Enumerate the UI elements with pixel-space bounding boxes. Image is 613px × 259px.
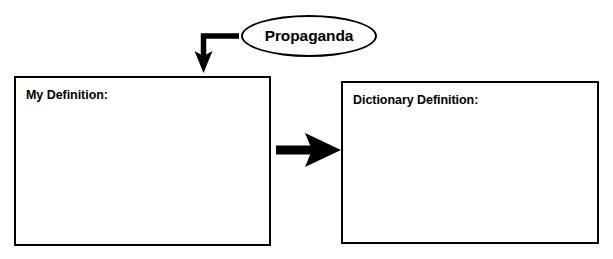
my-definition-content[interactable] [26,110,261,236]
arrow-right-icon [276,133,341,167]
topic-ellipse[interactable]: Propaganda [241,15,377,57]
my-definition-box[interactable]: My Definition: [14,76,271,246]
dictionary-definition-box[interactable]: Dictionary Definition: [341,81,599,244]
worksheet-canvas: Propaganda My Definition: Dictionary Def… [0,0,613,259]
dictionary-definition-content[interactable] [353,115,589,234]
my-definition-label: My Definition: [26,89,108,102]
elbow-arrow-down-icon [195,36,240,73]
dictionary-definition-label: Dictionary Definition: [353,94,478,107]
topic-label: Propaganda [265,28,354,44]
